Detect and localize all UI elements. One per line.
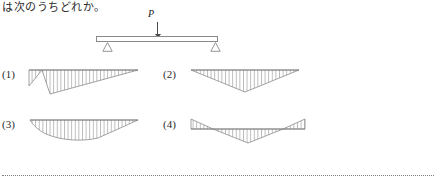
beam-figure: P (94, 8, 222, 54)
pin-support-right-icon (210, 42, 220, 51)
option-2-label: (2) (163, 68, 176, 80)
option-1-diagram (28, 66, 158, 110)
option-3-diagram (28, 116, 158, 160)
footer-dotted-separator (2, 175, 434, 176)
option-4-diagram (189, 116, 325, 160)
question-stem: は次のうちどれか。 (2, 0, 106, 14)
load-label-P: P (148, 8, 154, 19)
beam-bar (96, 36, 218, 42)
exam-page: は次のうちどれか。 P (1) (0, 0, 436, 184)
option-3-label: (3) (2, 118, 15, 130)
option-1-label: (1) (2, 68, 15, 80)
option-4-label: (4) (163, 118, 176, 130)
load-arrow-icon (157, 22, 158, 35)
option-2-diagram (189, 66, 319, 110)
pin-support-left-icon (102, 42, 112, 51)
